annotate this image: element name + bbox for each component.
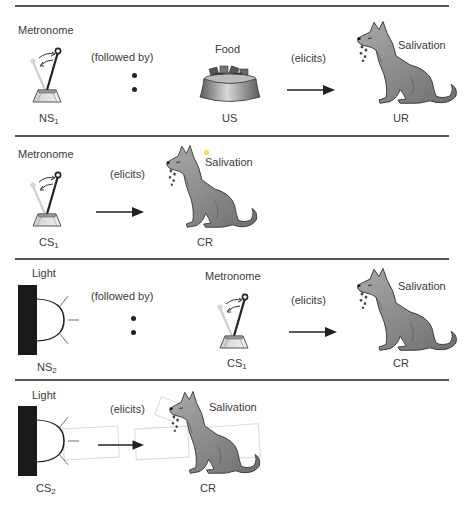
light-bulb-icon: [17, 285, 79, 355]
salivating-dog-icon: [350, 19, 460, 109]
response-code: CR: [200, 482, 216, 494]
right-arrow-icon: [289, 327, 337, 337]
response-code: UR: [393, 112, 409, 124]
us-code: US: [222, 112, 237, 124]
stimulus-label: Metronome: [18, 148, 74, 160]
response-code: CR: [197, 236, 213, 248]
food-bowl-icon: [198, 64, 262, 104]
stimulus-code: CS2: [36, 482, 56, 496]
cs-code: CS1: [227, 357, 247, 371]
divider: [15, 258, 449, 260]
stimulus-label: Light: [32, 267, 56, 279]
highlight-mark: [204, 150, 209, 155]
stimulus-code: NS1: [39, 112, 59, 126]
response-label: Salivation: [205, 156, 253, 168]
connector-label: (followed by): [91, 290, 153, 302]
response-label: Salivation: [398, 280, 446, 292]
stimulus-label: Light: [32, 389, 56, 401]
divider: [15, 135, 449, 137]
divider: [15, 379, 449, 381]
right-arrow-icon: [98, 440, 144, 450]
colon-icon: [131, 316, 137, 344]
relation-label: (elicits): [291, 52, 326, 64]
colon-icon: [132, 73, 138, 101]
connector-label: (followed by): [91, 51, 153, 63]
metronome-icon: [27, 168, 67, 228]
response-label: Salivation: [209, 401, 257, 413]
stimulus-code: CS1: [39, 236, 59, 250]
stimulus-label: Metronome: [18, 24, 74, 36]
metronome-icon: [214, 290, 254, 350]
cs-label: Metronome: [205, 270, 261, 282]
right-arrow-icon: [96, 207, 144, 217]
light-bulb-icon: [17, 406, 79, 476]
relation-label: (elicits): [291, 294, 326, 306]
right-arrow-icon: [287, 85, 335, 95]
response-label: Salivation: [398, 39, 446, 51]
divider-top: [15, 5, 449, 7]
relation-label: (elicits): [110, 403, 145, 415]
metronome-icon: [27, 44, 67, 104]
response-code: CR: [393, 357, 409, 369]
stimulus-code: NS2: [37, 361, 57, 375]
us-label: Food: [215, 43, 240, 55]
relation-label: (elicits): [110, 168, 145, 180]
